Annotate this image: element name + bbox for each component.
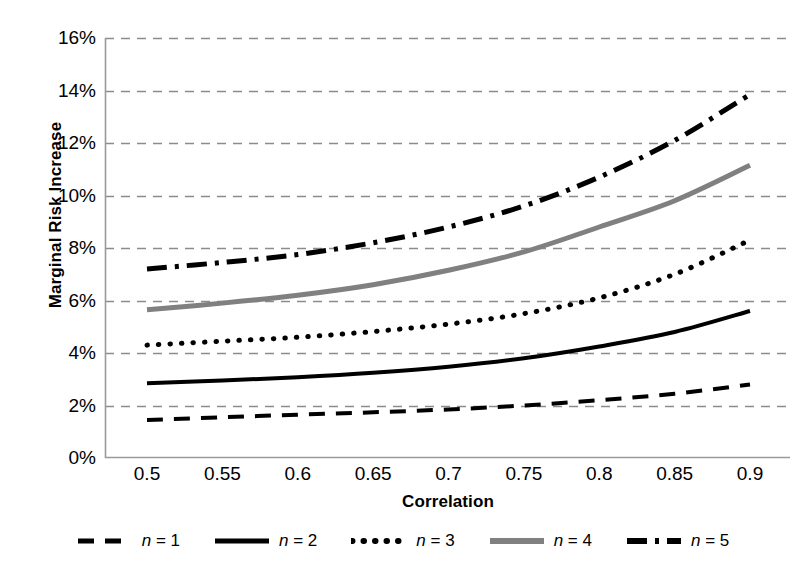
legend-item-n-2[interactable]: n = 2: [214, 531, 317, 551]
legend-item-n-4[interactable]: n = 4: [489, 531, 592, 551]
legend-swatch-n-1: [77, 534, 133, 548]
x-tick-label: 0.7: [435, 463, 461, 485]
legend-item-n-1[interactable]: n = 1: [77, 531, 180, 551]
legend-swatch-n-4: [489, 534, 545, 548]
x-tick-label: 0.75: [505, 463, 542, 485]
y-axis-title: Marginal Risk Increase: [46, 75, 66, 355]
legend-label-n-5: n = 5: [691, 531, 729, 551]
y-tick-label: 16%: [30, 27, 96, 49]
series-line-n-5: [147, 94, 750, 269]
y-tick-label: 2%: [30, 395, 96, 417]
x-tick-label: 0.85: [656, 463, 693, 485]
series-line-n-1: [147, 385, 750, 420]
legend-label-n-3: n = 3: [416, 531, 454, 551]
x-tick-label: 0.8: [586, 463, 612, 485]
legend-item-n-3[interactable]: n = 3: [351, 531, 454, 551]
x-tick-label: 0.5: [134, 463, 160, 485]
x-tick-label: 0.9: [737, 463, 763, 485]
x-tick-label: 0.6: [285, 463, 311, 485]
series-line-n-4: [147, 165, 750, 309]
x-tick-label: 0.65: [355, 463, 392, 485]
y-tick-label: 0%: [30, 447, 96, 469]
legend-swatch-n-2: [214, 534, 270, 548]
gridlines: [105, 39, 790, 407]
x-axis-title: Correlation: [105, 492, 791, 512]
legend-label-n-4: n = 4: [554, 531, 592, 551]
series-line-n-3: [147, 240, 750, 345]
legend-item-n-5[interactable]: n = 5: [626, 531, 729, 551]
legend-label-n-1: n = 1: [142, 531, 180, 551]
chart-legend: n = 1n = 2n = 3n = 4n = 5: [0, 531, 806, 551]
legend-label-n-2: n = 2: [279, 531, 317, 551]
legend-swatch-n-3: [351, 534, 407, 548]
series-line-n-2: [147, 311, 750, 383]
chart-figure: 0%2%4%6%8%10%12%14%16% 0.50.550.60.650.7…: [0, 0, 806, 586]
legend-swatch-n-5: [626, 534, 682, 548]
x-tick-label: 0.55: [204, 463, 241, 485]
